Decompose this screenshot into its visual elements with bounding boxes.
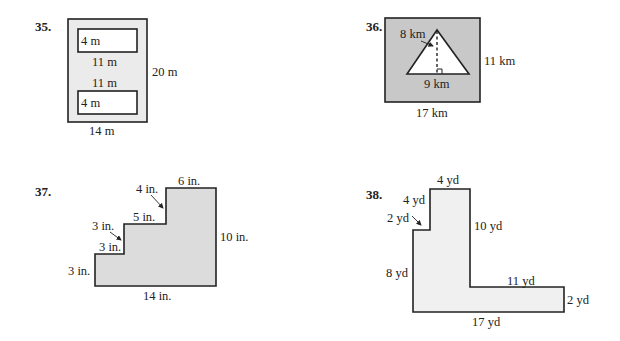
label: 17 yd: [472, 315, 501, 329]
problem-37: 37. 6 in. 4 in. 5 in. 3 in. 3 in. 3 in. …: [35, 174, 248, 303]
problem-number: 38.: [366, 187, 382, 202]
label: 10 in.: [220, 230, 248, 244]
arrow: [412, 216, 421, 225]
label: 11 km: [484, 54, 515, 68]
label: 4 in.: [136, 182, 158, 196]
label: 5 in.: [133, 210, 155, 224]
l-shaped-polygon: [413, 189, 564, 312]
staircase-polygon: [95, 188, 216, 286]
label: 3 in.: [99, 240, 121, 254]
label: 14 in.: [143, 289, 171, 303]
label: 4 yd: [403, 193, 426, 207]
label: 14 m: [89, 124, 115, 138]
label: 3 in.: [92, 219, 114, 233]
problem-number: 36.: [366, 19, 382, 34]
label: 4 m: [81, 96, 100, 110]
label: 11 yd: [507, 274, 535, 288]
label: 10 yd: [474, 219, 503, 233]
problem-number: 37.: [35, 184, 51, 199]
arrow: [110, 232, 121, 240]
problem-number: 35.: [35, 19, 51, 34]
label: 17 km: [416, 106, 448, 120]
label: 4 yd: [437, 173, 460, 187]
label: 3 in.: [68, 264, 90, 278]
label: 2 yd: [567, 293, 590, 307]
problem-36: 36. 8 km 9 km 11 km 17 km: [366, 18, 515, 120]
label: 8 km: [400, 27, 426, 41]
label: 11 m: [92, 55, 117, 69]
label: 8 yd: [386, 266, 409, 280]
problem-38: 38. 4 yd 4 yd 2 yd 10 yd 8 yd 11 yd 2 yd…: [366, 173, 590, 329]
label: 4 m: [81, 34, 100, 48]
label: 20 m: [152, 65, 178, 79]
exercise-figures: 35. 4 m 11 m 11 m 4 m 20 m 14 m 36. 8 km…: [0, 0, 620, 341]
label: 6 in.: [178, 174, 200, 188]
label: 9 km: [424, 77, 450, 91]
problem-35: 35. 4 m 11 m 11 m 4 m 20 m 14 m: [35, 19, 178, 138]
arrow: [151, 195, 163, 208]
label: 2 yd: [387, 211, 410, 225]
label: 11 m: [92, 76, 117, 90]
